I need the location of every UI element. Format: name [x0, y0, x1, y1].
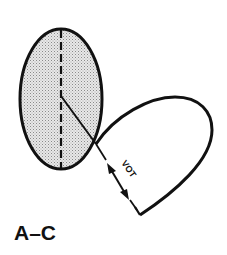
vot-extension-line	[96, 144, 106, 160]
vot-trajectory-diagram: VOT A–C	[0, 0, 227, 255]
loop-end-tick	[135, 207, 140, 215]
panel-label: A–C	[14, 221, 56, 244]
vot-label: VOT	[119, 158, 138, 179]
loop-curve	[96, 97, 212, 215]
